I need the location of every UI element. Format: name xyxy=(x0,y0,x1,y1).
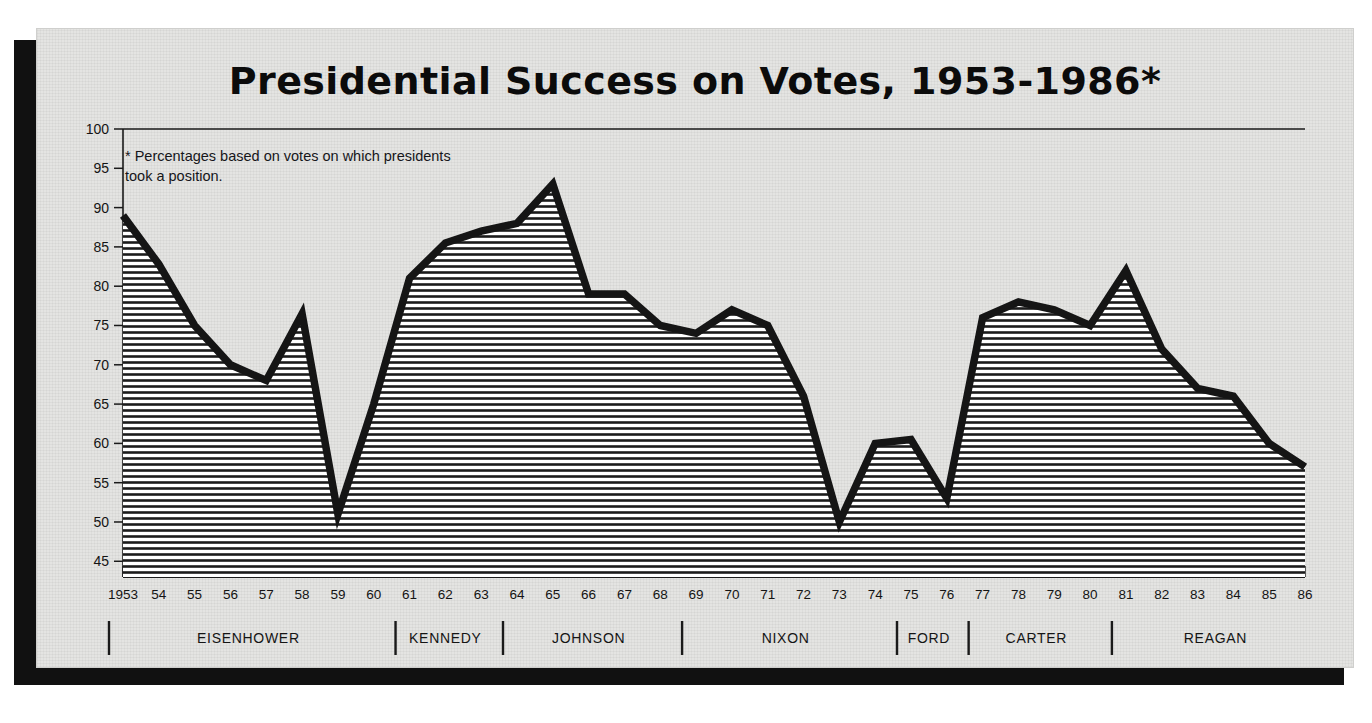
president-term-label: REAGAN xyxy=(1184,630,1247,646)
x-axis-tick-label: 66 xyxy=(581,587,596,602)
x-axis-tick-label: 84 xyxy=(1226,587,1242,602)
y-axis-tick-label: 95 xyxy=(93,160,109,176)
x-axis-tick-label: 71 xyxy=(760,587,775,602)
x-axis-tick-label: 82 xyxy=(1154,587,1169,602)
figure-panel: Presidential Success on Votes, 1953-1986… xyxy=(36,28,1354,668)
x-axis-tick-label: 81 xyxy=(1118,587,1133,602)
x-axis-tick-label: 76 xyxy=(939,587,954,602)
y-axis-tick-label: 100 xyxy=(86,121,110,137)
y-axis-tick-label: 75 xyxy=(93,317,109,333)
x-axis-tick-label: 73 xyxy=(832,587,847,602)
x-axis-tick-label: 63 xyxy=(474,587,489,602)
page-root: Presidential Success on Votes, 1953-1986… xyxy=(0,0,1372,723)
x-axis-tick-label: 83 xyxy=(1190,587,1205,602)
x-axis-tick-label: 65 xyxy=(545,587,560,602)
x-axis-tick-label: 74 xyxy=(868,587,884,602)
y-axis-tick-label: 60 xyxy=(93,435,109,451)
y-axis-tick-label: 70 xyxy=(93,357,109,373)
x-axis-tick-label: 68 xyxy=(653,587,668,602)
y-axis-tick-label: 50 xyxy=(93,514,109,530)
president-term-label: FORD xyxy=(908,630,950,646)
x-axis-tick-label: 57 xyxy=(259,587,274,602)
x-axis-tick-label: 54 xyxy=(151,587,167,602)
x-axis-tick-label: 67 xyxy=(617,587,632,602)
y-axis-tick-label: 45 xyxy=(93,553,109,569)
x-axis-tick-label: 80 xyxy=(1083,587,1098,602)
x-axis-tick-label: 75 xyxy=(903,587,918,602)
president-term-label: CARTER xyxy=(1006,630,1068,646)
x-axis-tick-label: 86 xyxy=(1297,587,1312,602)
president-term-label: KENNEDY xyxy=(409,630,482,646)
x-axis-tick-label: 77 xyxy=(975,587,990,602)
y-axis-tick-label: 55 xyxy=(93,475,109,491)
x-axis-tick-label: 72 xyxy=(796,587,811,602)
president-term-axis: EISENHOWERKENNEDYJOHNSONNIXONFORDCARTERR… xyxy=(109,621,1247,655)
x-axis-tick-label: 55 xyxy=(187,587,202,602)
chart-plot-area: 4550556065707580859095100 19535455565758… xyxy=(37,29,1355,669)
y-axis-tick-label: 65 xyxy=(93,396,109,412)
y-axis-tick-label: 80 xyxy=(93,278,109,294)
x-axis-tick-label: 1953 xyxy=(108,587,138,602)
y-axis-tick-label: 90 xyxy=(93,200,109,216)
x-axis-tick-label: 70 xyxy=(724,587,739,602)
y-axis: 4550556065707580859095100 xyxy=(86,121,123,577)
president-term-label: NIXON xyxy=(762,630,810,646)
x-axis-tick-label: 60 xyxy=(366,587,381,602)
chart-area-fill xyxy=(123,184,1305,577)
president-term-label: EISENHOWER xyxy=(197,630,300,646)
x-axis-tick-label: 64 xyxy=(509,587,525,602)
x-axis-tick-label: 58 xyxy=(295,587,310,602)
presidential-success-area-chart: 4550556065707580859095100 19535455565758… xyxy=(37,29,1355,669)
x-axis-tick-label: 62 xyxy=(438,587,453,602)
x-axis-tick-label: 69 xyxy=(689,587,704,602)
x-axis-tick-label: 56 xyxy=(223,587,238,602)
y-axis-tick-label: 85 xyxy=(93,239,109,255)
x-axis-tick-label: 79 xyxy=(1047,587,1062,602)
president-term-label: JOHNSON xyxy=(552,630,625,646)
x-axis-tick-label: 61 xyxy=(402,587,417,602)
x-axis-tick-label: 78 xyxy=(1011,587,1026,602)
x-axis-tick-label: 59 xyxy=(330,587,345,602)
x-axis-tick-label: 85 xyxy=(1262,587,1277,602)
